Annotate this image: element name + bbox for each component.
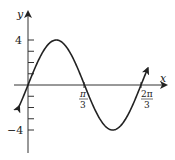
sine-graph: y x 4 −4 π 3 2π 3 [0,0,175,160]
x-label-2pi3-num: 2π [141,89,153,99]
y-axis-label: y [16,8,24,21]
x-label-pi3-den: 3 [80,100,86,110]
x-axis-label: x [160,72,167,85]
x-label-2pi3-den: 3 [144,100,150,110]
x-label-pi3-num: π [79,89,87,99]
y-label-neg4: −4 [7,124,23,137]
plot-svg: y x 4 −4 π 3 2π 3 [0,0,175,160]
y-label-4: 4 [15,34,22,47]
